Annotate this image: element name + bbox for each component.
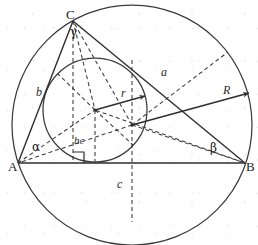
- chord-dashed-upper-right: [132, 52, 228, 125]
- circumradius-label-R: R: [223, 84, 230, 96]
- geometry-figure: g: [0, 0, 258, 245]
- figure-canvas: [0, 0, 258, 245]
- side-label-a: a: [161, 66, 167, 78]
- angle-label-beta: β: [210, 142, 217, 154]
- side-label-c: c: [117, 178, 122, 190]
- angle-label-alpha: α: [32, 141, 40, 153]
- vertex-label-B: B: [246, 160, 255, 173]
- inradius-to-tangent-b: [58, 74, 95, 110]
- angle-label-gamma: γ: [70, 26, 77, 38]
- bisector-from-B: [95, 110, 245, 163]
- vertex-label-A: A: [8, 160, 17, 173]
- incenter-dot: [93, 108, 96, 111]
- circumradius-line: [132, 93, 249, 125]
- side-label-b: b: [36, 86, 42, 98]
- vertex-label-C: C: [66, 8, 75, 21]
- circumcenter-dot: [130, 123, 133, 126]
- altitude-label-hc: hc: [74, 135, 84, 146]
- inradius-line: [95, 96, 145, 110]
- circumradius-to-C: [73, 21, 132, 125]
- inradius-label-r: r: [121, 87, 126, 99]
- inradius-to-tangent-a: [95, 110, 133, 145]
